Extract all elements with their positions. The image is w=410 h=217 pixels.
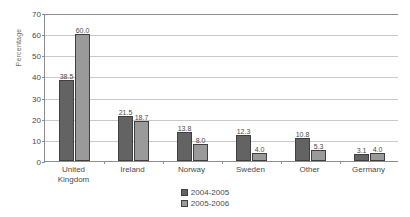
bar-group: 21.518.7 xyxy=(104,14,163,161)
bar-value-label: 38.5 xyxy=(60,73,74,80)
x-tick-mark xyxy=(104,161,105,164)
bar-value-label: 8.0 xyxy=(196,137,206,144)
bar[interactable]: 8.0 xyxy=(193,144,208,161)
y-axis-title: Percentage xyxy=(15,8,22,88)
bar-group: 10.85.3 xyxy=(281,14,340,161)
bar[interactable]: 18.7 xyxy=(134,121,149,161)
legend: 2004-20052005-2006 xyxy=(0,188,410,208)
bar-value-label: 3.1 xyxy=(357,147,367,154)
y-tick-label: 10 xyxy=(32,136,41,145)
bar[interactable]: 4.0 xyxy=(370,153,385,161)
bar-value-label: 18.7 xyxy=(135,114,149,121)
bar[interactable]: 21.5 xyxy=(118,116,133,161)
y-tick-label: 0 xyxy=(37,158,41,167)
bars-layer: 38.560.021.518.713.88.012.34.010.85.33.1… xyxy=(45,14,398,161)
bar-value-label: 4.0 xyxy=(373,146,383,153)
y-tick-mark xyxy=(42,162,45,163)
legend-label: 2004-2005 xyxy=(191,188,229,197)
x-tick-mark xyxy=(340,161,341,164)
bar[interactable]: 3.1 xyxy=(354,154,369,161)
bar-group: 13.88.0 xyxy=(163,14,222,161)
y-tick-label: 60 xyxy=(32,31,41,40)
x-category-label: United Kingdom xyxy=(44,165,103,184)
x-tick-mark xyxy=(222,161,223,164)
x-category-label: Sweden xyxy=(221,165,280,175)
legend-swatch xyxy=(181,200,188,207)
x-category-label: Norway xyxy=(162,165,221,175)
y-tick-label: 70 xyxy=(32,10,41,19)
bar-value-label: 13.8 xyxy=(178,125,192,132)
bar-value-label: 21.5 xyxy=(119,109,133,116)
x-category-label: Ireland xyxy=(103,165,162,175)
x-tick-mark xyxy=(163,161,164,164)
bar[interactable]: 12.3 xyxy=(236,135,251,161)
legend-label: 2005-2006 xyxy=(191,199,229,208)
bar[interactable]: 38.5 xyxy=(59,80,74,161)
bar-value-label: 60.0 xyxy=(76,27,90,34)
bar-group: 12.34.0 xyxy=(222,14,281,161)
bar-value-label: 12.3 xyxy=(237,128,251,135)
legend-swatch xyxy=(181,189,188,196)
y-tick-label: 50 xyxy=(32,52,41,61)
bar[interactable]: 10.8 xyxy=(295,138,310,161)
legend-item[interactable]: 2004-2005 xyxy=(181,188,229,197)
y-tick-label: 30 xyxy=(32,94,41,103)
bar[interactable]: 60.0 xyxy=(75,34,90,161)
bar[interactable]: 4.0 xyxy=(252,153,267,161)
bar-chart: Percentage 010203040506070 38.560.021.51… xyxy=(0,0,410,217)
plot-area: 010203040506070 38.560.021.518.713.88.01… xyxy=(44,14,398,162)
x-tick-mark xyxy=(281,161,282,164)
bar[interactable]: 5.3 xyxy=(311,150,326,161)
bar-value-label: 4.0 xyxy=(255,146,265,153)
legend-item[interactable]: 2005-2006 xyxy=(181,199,229,208)
bar-group: 3.14.0 xyxy=(340,14,399,161)
bar-value-label: 5.3 xyxy=(314,143,324,150)
y-tick-label: 40 xyxy=(32,73,41,82)
bar-value-label: 10.8 xyxy=(296,131,310,138)
bar-group: 38.560.0 xyxy=(45,14,104,161)
bar[interactable]: 13.8 xyxy=(177,132,192,161)
y-tick-label: 20 xyxy=(32,115,41,124)
x-category-label: Other xyxy=(280,165,339,175)
x-category-label: Germany xyxy=(339,165,398,175)
